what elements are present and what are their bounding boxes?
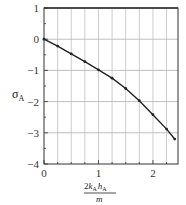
data-point (43, 38, 46, 41)
data-point (70, 52, 73, 55)
y-tick-label: −3 (27, 127, 39, 139)
data-line (44, 39, 175, 139)
y-axis-subscript: A (18, 94, 24, 103)
x-tick-label: 2 (150, 167, 156, 179)
data-point (152, 113, 155, 116)
y-tick-labels: 10−1−2−3−4 (27, 2, 39, 170)
y-tick-label: −2 (27, 96, 39, 108)
x-axis-numerator: 2kAhA (84, 181, 107, 192)
y-tick-label: −4 (27, 158, 39, 170)
axis-ticks (44, 8, 167, 164)
x-axis-label: 2kAhA m (84, 181, 116, 204)
x-tick-label: 1 (96, 167, 102, 179)
data-point (97, 68, 100, 71)
x-tick-label: 0 (41, 167, 47, 179)
data-point (173, 138, 176, 141)
y-tick-label: 1 (34, 2, 40, 14)
x-label-k-sub: A (93, 186, 98, 192)
chart: 10−1−2−3−4 012 σA 2kAhA m (0, 0, 186, 205)
data-point (138, 99, 141, 102)
y-tick-label: 0 (34, 33, 40, 45)
y-tick-label: −1 (27, 64, 39, 76)
data-point (83, 60, 86, 63)
y-axis-label: σA (12, 87, 24, 103)
x-tick-labels: 012 (41, 167, 155, 179)
data-series (43, 38, 177, 141)
plot-border (44, 8, 178, 164)
data-point (124, 87, 127, 90)
x-label-h-sub: A (102, 186, 107, 192)
data-point (111, 77, 114, 80)
gridlines (44, 8, 178, 164)
x-axis-denominator: m (96, 194, 103, 204)
data-point (165, 128, 168, 131)
data-point (56, 45, 59, 48)
plot-frame (44, 8, 178, 164)
